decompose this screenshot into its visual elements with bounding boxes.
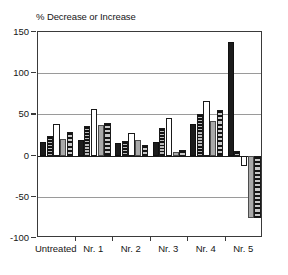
- x-tick-label: Nr. 1: [83, 243, 103, 254]
- x-tick-mark: [150, 237, 151, 241]
- x-tick-label: Nr. 5: [233, 243, 253, 254]
- x-tick-mark: [225, 237, 226, 241]
- x-tick-label: Nr. 2: [121, 243, 141, 254]
- x-tick-label: Nr. 3: [158, 243, 178, 254]
- x-tick-label: Untreated: [35, 243, 77, 254]
- x-tick-mark: [187, 237, 188, 241]
- x-tick-mark: [75, 237, 76, 241]
- x-tick-label: Nr. 4: [196, 243, 216, 254]
- x-tick-mark: [112, 237, 113, 241]
- x-axis: UntreatedNr. 1Nr. 2Nr. 3Nr. 4Nr. 5: [0, 0, 288, 275]
- chart-container: % Decrease or Increase 150100500-50-100 …: [0, 0, 288, 275]
